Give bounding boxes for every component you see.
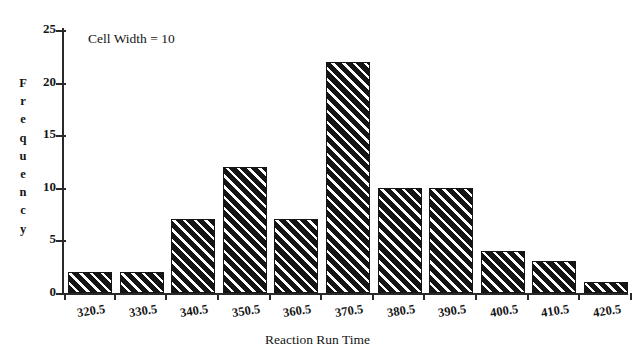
x-axis-tick-label: 360.5: [271, 300, 325, 323]
y-axis-tick-label: 20: [43, 74, 56, 90]
y-axis-title-letter: y: [12, 220, 34, 238]
x-axis-tick-label: 350.5: [219, 300, 273, 323]
y-axis-tick-mark: [56, 83, 66, 85]
y-axis-title-letter: e: [12, 165, 34, 183]
histogram-bar: [378, 188, 422, 293]
y-axis-tick-label: 25: [43, 21, 56, 37]
y-axis-line: [62, 28, 64, 295]
x-axis-line: [62, 293, 628, 295]
y-axis-tick-mark: [56, 30, 66, 32]
y-axis-title-letter: r: [12, 92, 34, 110]
y-axis-tick-label: 10: [43, 179, 56, 195]
plot-area: 0510152025 320.5330.5340.5350.5360.5370.…: [62, 28, 628, 295]
x-axis-tick-label: 390.5: [426, 300, 480, 323]
x-axis-tick-label: 330.5: [116, 300, 170, 323]
histogram-bar: [326, 62, 370, 293]
histogram-bar: [68, 272, 112, 293]
histogram-bar: [223, 167, 267, 293]
x-axis-tick-label: 420.5: [580, 300, 634, 323]
y-axis-title: Frequency: [12, 74, 34, 238]
histogram-figure: Frequency Cell Width = 10 0510152025 320…: [0, 0, 635, 364]
y-axis-title-letter: u: [12, 147, 34, 165]
histogram-bar: [429, 188, 473, 293]
y-axis-tick-label: 5: [50, 231, 57, 247]
y-axis-title-letter: q: [12, 129, 34, 147]
histogram-bar: [584, 282, 628, 293]
histogram-bar: [532, 261, 576, 293]
x-axis-title: Reaction Run Time: [0, 332, 635, 348]
histogram-bar: [171, 219, 215, 293]
y-axis-tick-mark: [56, 135, 66, 137]
y-axis-title-letter: F: [12, 74, 34, 92]
y-axis-tick-mark: [56, 188, 66, 190]
x-axis-tick-label: 380.5: [374, 300, 428, 323]
x-axis-tick-label: 400.5: [477, 300, 531, 323]
y-axis-title-letter: n: [12, 183, 34, 201]
x-axis-tick-mark: [64, 293, 66, 300]
y-axis-title-letter: e: [12, 110, 34, 128]
y-axis-tick-mark: [56, 240, 66, 242]
x-axis-tick-label: 370.5: [322, 300, 376, 323]
x-axis-tick-label: 340.5: [168, 300, 222, 323]
x-axis-tick-label: 320.5: [64, 300, 118, 323]
y-axis-tick-label: 15: [43, 126, 56, 142]
histogram-bar: [120, 272, 164, 293]
histogram-bar: [274, 219, 318, 293]
x-axis-tick-label: 410.5: [529, 300, 583, 323]
histogram-bar: [481, 251, 525, 293]
y-axis-title-letter: c: [12, 201, 34, 219]
y-axis-tick-label: 0: [50, 284, 57, 300]
